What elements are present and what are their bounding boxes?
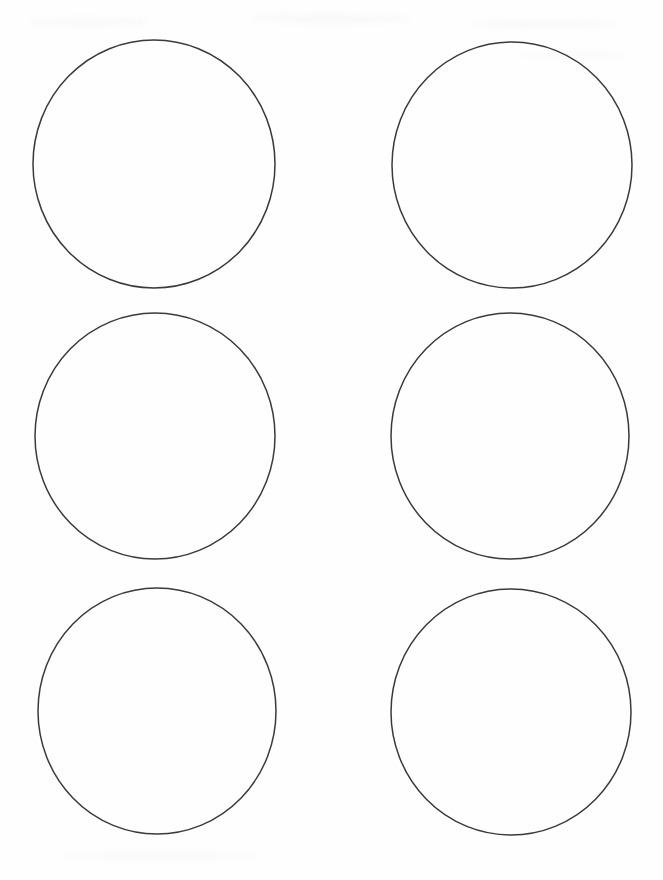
scan-artifact-4: [520, 52, 630, 59]
template-sheet: [0, 0, 663, 880]
scan-artifact-5: [60, 852, 260, 860]
scan-artifact-1: [30, 18, 150, 26]
scan-artifact-2: [250, 14, 410, 23]
page-background: [0, 0, 663, 880]
scan-artifact-3: [470, 20, 620, 28]
circle-template-canvas: [0, 0, 663, 880]
